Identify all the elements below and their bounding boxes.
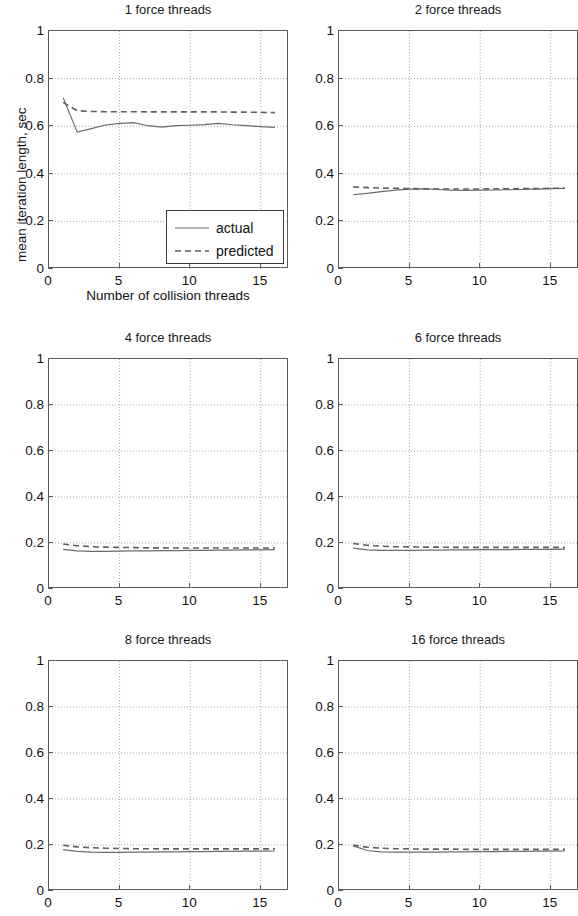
x-tick-mark [409, 885, 410, 890]
y-tick-mark [338, 844, 343, 845]
plot-canvas [339, 661, 578, 891]
plot-area [338, 660, 578, 890]
y-tick-label: 0 [292, 883, 334, 898]
figure-canvas: mean iteration length, sec Number of col… [0, 0, 578, 916]
x-tick-mark [550, 885, 551, 890]
y-tick-label: 0.4 [292, 791, 334, 806]
y-tick-label: 0.2 [292, 837, 334, 852]
x-tick-mark [479, 885, 480, 890]
y-tick-mark [338, 660, 343, 661]
y-tick-label: 0.6 [292, 745, 334, 760]
x-tick-label: 15 [542, 895, 557, 910]
series-line-predicted [353, 845, 565, 849]
subplot-title: 16 force threads [338, 632, 578, 647]
y-tick-mark [338, 706, 343, 707]
x-tick-label: 5 [405, 895, 413, 910]
x-tick-mark [338, 885, 339, 890]
y-tick-label: 1 [292, 653, 334, 668]
x-tick-label: 10 [472, 895, 487, 910]
y-tick-mark [338, 890, 343, 891]
y-tick-mark [338, 752, 343, 753]
subplot-6: 16 force threads00.20.40.60.81051015 [0, 0, 578, 916]
y-tick-mark [338, 798, 343, 799]
y-tick-label: 0.8 [292, 699, 334, 714]
x-tick-label: 0 [334, 895, 342, 910]
